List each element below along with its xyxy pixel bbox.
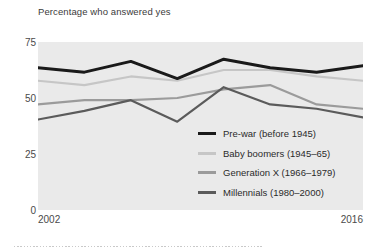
legend-item-baby-boomers[interactable]: Baby boomers (1945–65) [198,148,336,159]
y-tick-label-0: 0 [2,205,36,216]
y-axis: 75 50 25 0 [0,0,36,252]
chart-container: Percentage who answered yes 75 50 25 0 2… [0,0,371,252]
legend-item-label: Pre-war (before 1945) [223,128,316,139]
y-tick-label-50: 50 [2,93,36,104]
legend-item-label: Generation X (1966–1979) [223,167,336,178]
legend-item-label: Millennials (1980–2000) [223,187,324,198]
bottom-dotted-rule [14,246,264,247]
chart-title: Percentage who answered yes [38,6,171,17]
legend-swatch-icon [198,171,216,174]
x-tick-label-end: 2016 [341,214,363,225]
legend-item-pre-war[interactable]: Pre-war (before 1945) [198,128,336,139]
legend-swatch-icon [198,152,216,155]
x-tick-label-start: 2002 [38,214,60,225]
legend-item-label: Baby boomers (1945–65) [223,148,330,159]
legend-item-millennials[interactable]: Millennials (1980–2000) [198,187,336,198]
chart-legend: Pre-war (before 1945) Baby boomers (1945… [198,128,336,198]
y-tick-label-25: 25 [2,149,36,160]
y-tick-label-75: 75 [2,37,36,48]
legend-swatch-icon [198,132,216,135]
legend-swatch-icon [198,191,216,194]
legend-item-generation-x[interactable]: Generation X (1966–1979) [198,167,336,178]
